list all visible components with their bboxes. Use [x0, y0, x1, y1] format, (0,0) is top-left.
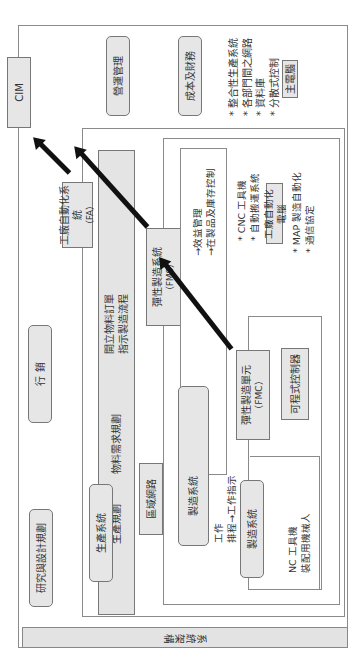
plc-box: 可程式控制器 [281, 348, 309, 420]
cim-feature-list: * 整合性生產系統 * 各部門間之網路 * 資料庫 * 分散式控制 [226, 26, 282, 116]
cim-feature: * 分散式控制 [268, 26, 282, 116]
map-protocol-text: * MAP 製造自動化 * 通信協定 [288, 143, 318, 253]
system-architecture-strip: 系統架構 [22, 627, 348, 648]
fmc-label-box: 彈性製造單元 （FMC） [236, 350, 270, 440]
cim-feature: * 各部門間之網路 [241, 26, 255, 116]
cim-architecture-diagram: 系統架構 CIM 營運管理 成本及財務 * 整合性生產系統 * 各部門間之網路 … [0, 0, 362, 661]
manufacturing-system-box: 製造系統 [178, 386, 209, 546]
cost-finance-box: 成本及財務 [178, 36, 202, 116]
marketing-box: 行 銷 [28, 325, 52, 423]
operations-management-box: 營運管理 [106, 36, 130, 116]
factory-automation-computer-box: 工廠自動化電腦 [266, 183, 283, 244]
main-computer-box: 主電腦 [282, 60, 298, 98]
rnd-planning-box: 研究與設計規劃 [29, 509, 53, 607]
cim-feature: * 資料庫 [254, 26, 268, 116]
fa-label-box: 工廠自動化系統 （FA） [62, 182, 93, 248]
work-scheduling-text: 工作 排程→工作指示 [210, 433, 240, 543]
cim-feature: * 整合性生產系統 [227, 26, 241, 116]
fms-feature-list: * CNC 工具機 * 自動搬運系統 [233, 151, 263, 241]
nc-machines-text: NC 工具機 裝配用機械人 [284, 473, 314, 573]
lan-box: 區域網路 [139, 463, 163, 535]
production-system-box: 生產系統 [89, 484, 113, 582]
fmc-manufacturing-system-box: 製造系統 [240, 480, 264, 578]
cim-box: CIM [7, 57, 31, 128]
fms-management-text: →效益管理 →在製品及庫存控制 [184, 156, 224, 256]
